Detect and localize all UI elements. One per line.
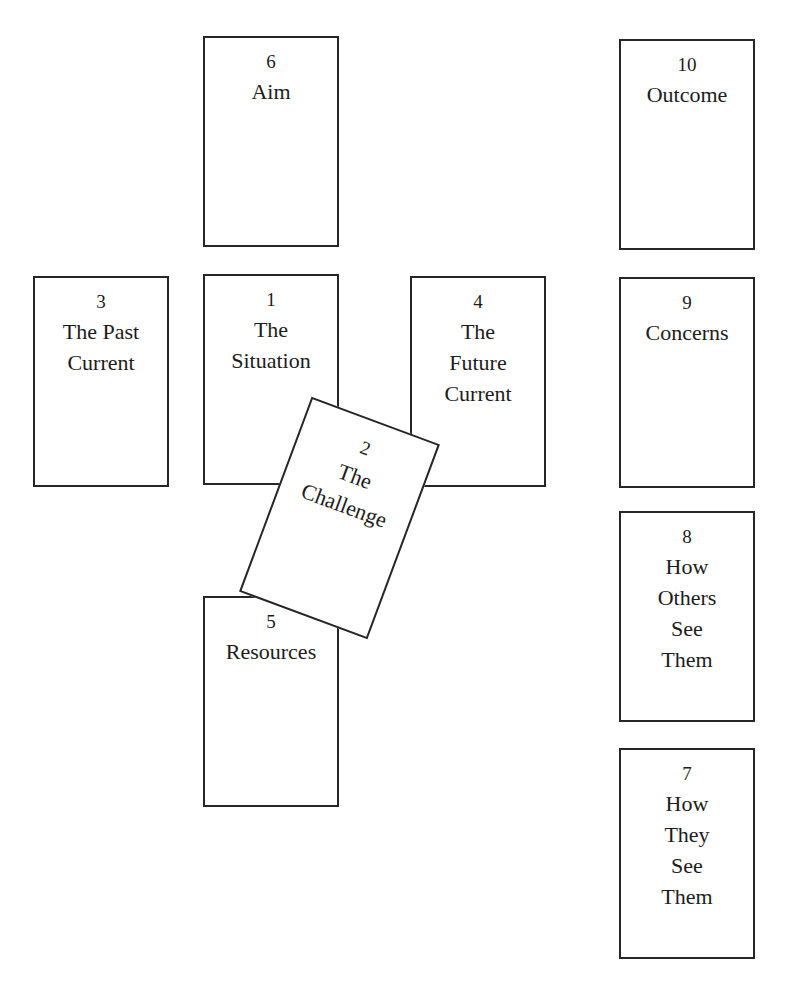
card-label: How They See Them bbox=[621, 788, 753, 912]
card-resources: 5 Resources bbox=[203, 596, 339, 807]
card-content: 7 How They See Them bbox=[621, 760, 753, 912]
card-number: 1 bbox=[205, 286, 337, 314]
card-content: 6 Aim bbox=[205, 48, 337, 107]
card-aim: 6 Aim bbox=[203, 36, 339, 247]
card-label: The Past Current bbox=[35, 316, 167, 378]
card-number: 4 bbox=[412, 288, 544, 316]
card-content: 2 The Challenge bbox=[276, 412, 432, 543]
card-outcome: 10 Outcome bbox=[619, 39, 755, 250]
card-content: 4 The Future Current bbox=[412, 288, 544, 409]
card-content: 8 How Others See Them bbox=[621, 523, 753, 675]
card-number: 10 bbox=[621, 51, 753, 79]
card-number: 6 bbox=[205, 48, 337, 76]
card-how-they-see-them: 7 How They See Them bbox=[619, 748, 755, 959]
card-label: The Situation bbox=[205, 314, 337, 376]
card-content: 9 Concerns bbox=[621, 289, 753, 348]
card-label: Outcome bbox=[621, 79, 753, 110]
card-label: Concerns bbox=[621, 317, 753, 348]
card-content: 1 The Situation bbox=[205, 286, 337, 376]
card-number: 7 bbox=[621, 760, 753, 788]
card-number: 9 bbox=[621, 289, 753, 317]
card-concerns: 9 Concerns bbox=[619, 277, 755, 488]
card-the-past-current: 3 The Past Current bbox=[33, 276, 169, 487]
card-label: How Others See Them bbox=[621, 551, 753, 675]
card-number: 3 bbox=[35, 288, 167, 316]
card-content: 10 Outcome bbox=[621, 51, 753, 110]
card-label: Aim bbox=[205, 76, 337, 107]
card-label: The Future Current bbox=[412, 316, 544, 409]
card-content: 3 The Past Current bbox=[35, 288, 167, 378]
card-number: 8 bbox=[621, 523, 753, 551]
card-label: Resources bbox=[205, 636, 337, 667]
card-how-others-see-them: 8 How Others See Them bbox=[619, 511, 755, 722]
